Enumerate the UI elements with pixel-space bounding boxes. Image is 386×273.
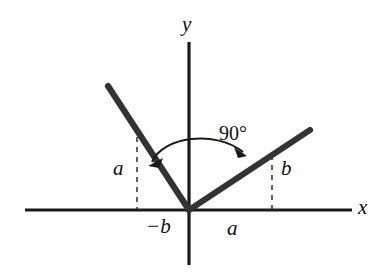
y-axis-label: y (182, 14, 191, 35)
left-run-label: −b (146, 216, 171, 237)
right-ray-line (189, 130, 310, 210)
figure-canvas (0, 0, 386, 273)
x-axis-label: x (358, 197, 367, 218)
geometry-figure: y x 90° a b −b a (0, 0, 386, 273)
left-ray-line (108, 86, 189, 210)
left-rise-label: a (113, 158, 124, 179)
right-rise-label: b (281, 158, 292, 179)
right-run-label: a (227, 218, 238, 239)
angle-label: 90° (219, 123, 247, 143)
angle-arc-arrowhead-right (234, 147, 247, 158)
